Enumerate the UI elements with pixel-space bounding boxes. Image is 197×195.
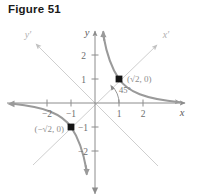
y-tick-label-pos1: 1 (81, 75, 86, 85)
y-tick-label-pos2: 2 (81, 51, 86, 61)
vertex-marker-negative (68, 124, 75, 131)
x-tick-label-pos2: 2 (141, 109, 146, 119)
coordinate-plot: −2 −1 1 2 2 1 −1 −2 x y y′ x′ 45° (√2, 0… (0, 18, 197, 195)
figure-container: Figure 51 (0, 0, 197, 195)
x-axis (7, 100, 185, 107)
x-tick-label-neg2: −2 (42, 109, 52, 119)
y-tick-label-neg1: −1 (78, 123, 88, 133)
figure-title: Figure 51 (8, 3, 61, 15)
y-axis (92, 31, 99, 194)
hyperbola-branch-upper (100, 31, 180, 103)
y-axis-label: y (84, 27, 90, 38)
plot-area: −2 −1 1 2 2 1 −1 −2 x y y′ x′ 45° (√2, 0… (0, 18, 197, 195)
vertex-marker-positive (116, 76, 123, 83)
x-prime-axis-label: x′ (162, 29, 170, 40)
x-tick-label-neg1: −1 (66, 109, 76, 119)
rotation-angle-label: 45° (119, 85, 131, 95)
x-tick-label-pos1: 1 (117, 109, 122, 119)
x-axis-label: x (179, 107, 185, 118)
rotation-angle-arc (110, 84, 119, 103)
y-tick-label-neg2: −2 (78, 147, 88, 157)
vertex-label-negative: (−√2, 0) (34, 124, 64, 134)
y-prime-axis-label: y′ (24, 29, 32, 40)
vertex-label-positive: (√2, 0) (127, 74, 151, 84)
